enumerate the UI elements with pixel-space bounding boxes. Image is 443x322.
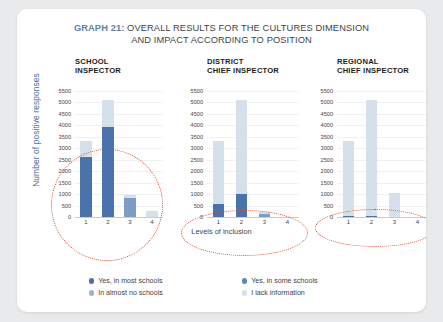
y-tick-label: 2500 xyxy=(191,157,203,163)
panel-heading-line2: CHIEF INSPECTOR xyxy=(337,66,409,75)
y-tick-label: 4000 xyxy=(59,122,71,128)
bar-segment xyxy=(146,211,157,217)
bar-school-inspector-1[interactable] xyxy=(80,85,91,217)
bar-segment xyxy=(213,204,225,217)
bar-segment xyxy=(236,100,248,194)
x-tick-label: 3 xyxy=(383,219,406,225)
y-tick-label: 3000 xyxy=(59,145,71,151)
bar-school-inspector-4[interactable] xyxy=(146,85,157,217)
bar-regional-chief-inspector-4[interactable] xyxy=(412,85,424,217)
legend-swatch-almost-none xyxy=(89,290,94,295)
legend-label-lack-info: I lack information xyxy=(251,289,305,297)
y-tick-label: 5000 xyxy=(191,99,203,105)
bar-segment xyxy=(213,141,225,204)
bar-segment xyxy=(389,193,401,217)
y-tick-label: 3000 xyxy=(191,145,203,151)
x-tick-label: 1 xyxy=(75,219,97,225)
y-tick-label: 2000 xyxy=(321,168,333,174)
legend-label-most: Yes, in most schools xyxy=(98,277,162,285)
x-tick-label: 2 xyxy=(360,219,383,225)
title-line-1: OVERALL RESULTS FOR THE CULTURES DIMENSI… xyxy=(124,23,369,33)
y-tick-label: 0 xyxy=(200,214,203,220)
y-axis-title: Number of positive responses xyxy=(31,55,41,205)
panel-heading-line2: CHIEF INSPECTOR xyxy=(207,66,279,75)
y-tick-label: 4500 xyxy=(191,111,203,117)
panel-heading-district-chief-inspector: DISTRICTCHIEF INSPECTOR xyxy=(207,57,279,76)
y-tick-label: 2000 xyxy=(191,168,203,174)
x-tick-label: 4 xyxy=(406,219,426,225)
panel-heading-regional-chief-inspector: REGIONALCHIEF INSPECTOR xyxy=(337,57,409,76)
bar-group: 1234 xyxy=(75,85,163,217)
y-tick-label: 3500 xyxy=(191,134,203,140)
y-tick-label: 500 xyxy=(324,203,333,209)
title-line-2: AND IMPACT ACCORDING TO POSITION xyxy=(131,35,312,45)
bar-district-chief-inspector-4[interactable] xyxy=(282,85,294,217)
bar-group: 1234 xyxy=(207,85,299,217)
legend-label-almost-none: In almost no schools xyxy=(98,289,163,297)
bar-district-chief-inspector-3[interactable] xyxy=(259,85,271,217)
legend-item-2: In almost no schools xyxy=(89,289,163,297)
bar-segment xyxy=(366,216,378,217)
y-tick-label: 5500 xyxy=(321,88,333,94)
y-axis-ticks: 0500100015002000250030003500400045005000… xyxy=(309,85,335,217)
legend-label-some: Yes, in some schools xyxy=(251,277,317,285)
x-tick-label: 3 xyxy=(253,219,276,225)
y-tick-label: 1500 xyxy=(59,180,71,186)
bar-segment xyxy=(124,198,135,217)
y-tick-label: 500 xyxy=(62,203,71,209)
y-tick-label: 5000 xyxy=(321,99,333,105)
legend-item-3: I lack information xyxy=(242,289,305,297)
panel-heading-line1: SCHOOL xyxy=(75,57,109,66)
bar-regional-chief-inspector-2[interactable] xyxy=(366,85,378,217)
y-tick-label: 3500 xyxy=(59,134,71,140)
y-tick-label: 4500 xyxy=(321,111,333,117)
y-tick-label: 5000 xyxy=(59,99,71,105)
x-axis-line xyxy=(75,217,163,218)
bar-segment xyxy=(124,195,135,198)
bar-segment xyxy=(236,194,248,217)
y-axis-ticks: 0500100015002000250030003500400045005000… xyxy=(179,85,205,217)
bar-segment xyxy=(80,141,91,157)
legend-swatch-lack-info xyxy=(242,290,247,295)
y-tick-label: 0 xyxy=(68,214,71,220)
bar-school-inspector-2[interactable] xyxy=(102,85,113,217)
bar-district-chief-inspector-1[interactable] xyxy=(213,85,225,217)
legend-swatch-some xyxy=(242,278,247,283)
x-axis-title: Levels of inclusion xyxy=(17,227,426,236)
bar-school-inspector-3[interactable] xyxy=(124,85,135,217)
y-tick-label: 0 xyxy=(330,214,333,220)
y-tick-label: 2500 xyxy=(321,157,333,163)
chart-legend: Yes, in most schools In almost no school… xyxy=(17,277,426,307)
bar-segment xyxy=(80,157,91,217)
x-tick-label: 2 xyxy=(97,219,119,225)
y-axis-ticks: 0500100015002000250030003500400045005000… xyxy=(47,85,73,217)
x-axis-line xyxy=(337,217,426,218)
x-tick-label: 4 xyxy=(141,219,163,225)
y-tick-label: 2000 xyxy=(59,168,71,174)
y-tick-label: 3500 xyxy=(321,134,333,140)
bar-segment xyxy=(102,127,113,217)
legend-item-1: Yes, in some schools xyxy=(242,277,318,285)
bar-district-chief-inspector-2[interactable] xyxy=(236,85,248,217)
y-tick-label: 1500 xyxy=(191,180,203,186)
plot-container: Number of positive responses SCHOOLINSPE… xyxy=(17,57,426,257)
y-tick-label: 5500 xyxy=(191,88,203,94)
bar-segment xyxy=(259,214,271,217)
bar-segment xyxy=(343,141,355,215)
bar-segment xyxy=(102,100,113,128)
legend-swatch-most xyxy=(89,278,94,283)
graph-number: GRAPH 21: xyxy=(74,23,125,33)
bar-regional-chief-inspector-3[interactable] xyxy=(389,85,401,217)
panel-heading-line1: REGIONAL xyxy=(337,57,379,66)
y-tick-label: 1000 xyxy=(59,191,71,197)
bar-regional-chief-inspector-1[interactable] xyxy=(343,85,355,217)
x-tick-label: 1 xyxy=(207,219,230,225)
bar-segment xyxy=(366,100,378,216)
panel-heading-school-inspector: SCHOOLINSPECTOR xyxy=(75,57,121,76)
y-tick-label: 2500 xyxy=(59,157,71,163)
y-tick-label: 1500 xyxy=(321,180,333,186)
page-title: GRAPH 21: OVERALL RESULTS FOR THE CULTUR… xyxy=(17,22,426,47)
y-tick-label: 5500 xyxy=(59,88,71,94)
bar-segment xyxy=(343,216,355,217)
y-tick-label: 1000 xyxy=(191,191,203,197)
